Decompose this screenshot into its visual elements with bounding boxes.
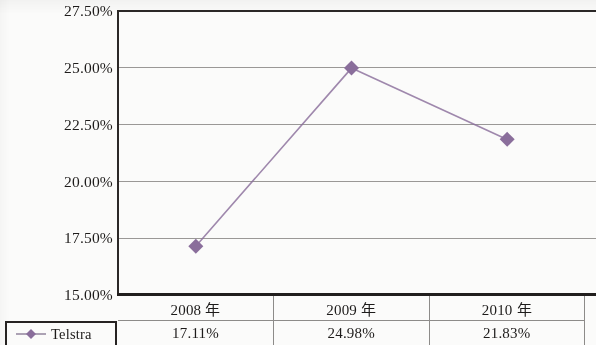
y-axis-tick-label-15-00: 15.00%: [0, 287, 113, 303]
y-axis-tick-label-20-00: 20.00%: [0, 174, 113, 190]
table-header-row: 2008 年 2009 年 2010 年: [118, 296, 585, 321]
table-header-2010: 2010 年: [429, 296, 585, 321]
data-point-2010-年: [500, 132, 515, 147]
diamond-marker-icon: [16, 328, 46, 340]
series-line-telstra: [196, 68, 507, 246]
gridline-20-00: [119, 181, 596, 182]
y-axis-tick-label-17-50: 17.50%: [0, 230, 113, 246]
gridline-22-50: [119, 124, 596, 125]
y-axis-line: [117, 10, 119, 295]
legend-label-telstra: Telstra: [51, 327, 92, 342]
table-cell-telstra-2008: 17.11%: [118, 321, 274, 345]
table-cell-telstra-2009: 24.98%: [274, 321, 430, 345]
y-axis-tick-label-25-00: 25.00%: [0, 60, 113, 76]
table-cell-telstra-2010: 21.83%: [429, 321, 585, 345]
table-header-2009: 2009 年: [274, 296, 430, 321]
y-axis-tick-label-27-50: 27.50%: [0, 3, 113, 19]
data-table: 2008 年 2009 年 2010 年 17.11% 24.98% 21.83…: [118, 296, 585, 345]
gridline-25-00: [119, 67, 596, 68]
chart-figure: 27.50% 25.00% 22.50% 20.00% 17.50% 15.00…: [0, 0, 596, 345]
y-axis-tick-label-22-50: 22.50%: [0, 117, 113, 133]
data-point-2009-年: [344, 61, 359, 76]
table-row: 17.11% 24.98% 21.83%: [118, 321, 585, 345]
table-header-2008: 2008 年: [118, 296, 274, 321]
data-point-2008-年: [188, 239, 203, 254]
gridline-17-50: [119, 238, 596, 239]
plot-border-top: [118, 10, 596, 12]
legend: Telstra: [5, 321, 117, 345]
